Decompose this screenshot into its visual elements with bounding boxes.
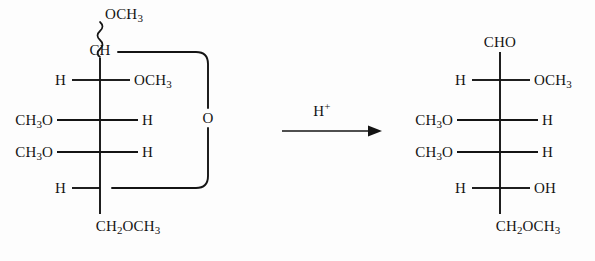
- product-row-0-left: H: [455, 73, 466, 88]
- product-row-2-right: H: [542, 145, 553, 160]
- product-top-label: CHO: [484, 35, 516, 50]
- product-bottom-label: CH2OCH3: [496, 219, 561, 234]
- product-row-1-right: H: [542, 113, 553, 128]
- product-row-3-left: H: [455, 181, 466, 196]
- product-row-3-right: OH: [534, 181, 556, 196]
- reaction-scheme: OCH3 CH H OCH3 CH3O H CH3O H H O CH2OCH3…: [0, 0, 595, 261]
- product-row-1-left: CH3O: [415, 113, 453, 128]
- product-row-2-left: CH3O: [415, 145, 453, 160]
- product-row-0-right: OCH3: [534, 73, 572, 88]
